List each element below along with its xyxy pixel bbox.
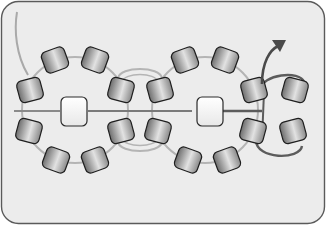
beading-diagram: [0, 0, 326, 225]
panel-background: [2, 2, 325, 224]
pearl-center-right: [197, 97, 223, 126]
pearl-center-left: [61, 97, 87, 126]
